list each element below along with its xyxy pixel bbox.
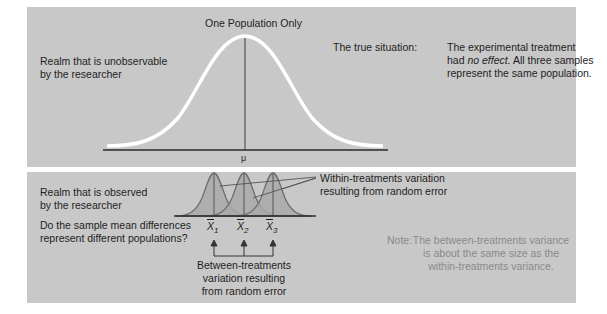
true-situation-line-1: The experimental treatment	[447, 41, 594, 54]
line2-prefix: had	[447, 54, 467, 66]
realm-line-1: Realm that is unobservable	[40, 55, 167, 68]
note-line-2: is about the same size as the	[411, 247, 571, 260]
true-situation-text: The experimental treatment had no effect…	[447, 41, 594, 80]
between-line-2: variation resulting	[185, 272, 303, 285]
line2-suffix: All three samples	[511, 54, 594, 66]
population-distribution-graphic	[27, 7, 576, 167]
between-treatments-label: Between-treatments variation resulting f…	[185, 259, 303, 298]
between-bracket-arrows	[211, 240, 276, 256]
true-situation-label: The true situation:	[333, 41, 417, 54]
xbar-symbol: X	[237, 220, 244, 232]
question-line-2: represent different populations?	[40, 232, 191, 245]
observed-line-1: Realm that is observed	[40, 186, 147, 199]
note-text: The between-treatments variance is about…	[411, 234, 571, 273]
xbar-symbol: X	[207, 220, 214, 232]
within-line-2: resulting from random error	[320, 185, 447, 198]
mu-label: μ	[241, 152, 246, 165]
note-line-1: The between-treatments variance	[411, 234, 571, 247]
subscript: 3	[273, 226, 277, 235]
between-line-3: from random error	[185, 285, 303, 298]
sample-mean-2: X2	[237, 220, 248, 237]
question-line-1: Do the sample mean differences	[40, 219, 191, 232]
sample-mean-1: X1	[207, 220, 218, 237]
true-situation-line-3: represent the same population.	[447, 67, 594, 80]
within-line-1: Within-treatments variation	[320, 172, 447, 185]
sample-mean-3: X3	[266, 220, 277, 237]
no-effect-emphasis: no effect.	[467, 54, 510, 66]
observed-line-2: by the researcher	[40, 199, 147, 212]
true-situation-line-2: had no effect. All three samples	[447, 54, 594, 67]
xbar-symbol: X	[266, 220, 273, 232]
subscript: 1	[214, 226, 218, 235]
unobservable-realm-label: Realm that is unobservable by the resear…	[40, 55, 167, 81]
between-line-1: Between-treatments	[185, 259, 303, 272]
population-title: One Population Only	[205, 17, 302, 30]
note-prefix: Note:	[387, 234, 412, 247]
within-treatments-label: Within-treatments variation resulting fr…	[320, 172, 447, 198]
observed-realm-label: Realm that is observed by the researcher	[40, 186, 147, 212]
realm-line-2: by the researcher	[40, 68, 167, 81]
research-question: Do the sample mean differences represent…	[40, 219, 191, 245]
observed-realm-panel: Realm that is observed by the researcher…	[27, 172, 576, 303]
note-line-3: within-treatments variance.	[411, 260, 571, 273]
unobservable-realm-panel: One Population Only Realm that is unobse…	[27, 7, 576, 167]
subscript: 2	[244, 226, 248, 235]
